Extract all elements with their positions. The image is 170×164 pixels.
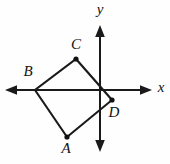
vertex-label-a: A — [60, 140, 71, 156]
x-axis-label: x — [157, 79, 165, 95]
vertex-dot-a — [64, 134, 69, 139]
vertex-label-b: B — [23, 63, 32, 79]
x-axis: x — [5, 79, 165, 95]
coordinate-plane-svg: x y A B C D — [0, 0, 170, 164]
y-axis: y — [95, 1, 105, 152]
x-axis-right-arrowhead — [140, 85, 152, 95]
y-axis-bottom-arrowhead — [95, 140, 105, 152]
y-axis-label: y — [95, 1, 104, 17]
y-axis-top-arrowhead — [95, 25, 105, 37]
vertex-labels: A B C D — [23, 36, 119, 156]
vertex-label-d: D — [108, 104, 120, 120]
vertex-dot-c — [73, 56, 78, 61]
vertex-label-c: C — [71, 36, 82, 52]
geometry-figure: x y A B C D — [0, 0, 170, 164]
vertex-dot-d — [109, 97, 114, 102]
x-axis-left-arrowhead — [5, 85, 17, 95]
quadrilateral-shape — [35, 56, 115, 139]
